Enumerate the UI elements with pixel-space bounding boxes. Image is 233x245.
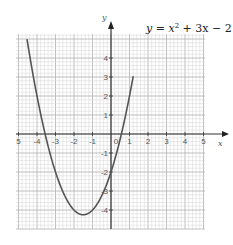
y-axis-arrow-icon bbox=[108, 21, 114, 29]
function-graph: 5-4-3-2-10123454321-1-2-3-4 y x y = x2 +… bbox=[0, 0, 233, 245]
equation-title: y = x2 + 3x − 2 bbox=[145, 22, 232, 35]
x-tick-label: -1 bbox=[89, 137, 97, 146]
y-tick-label: 2 bbox=[104, 92, 109, 101]
x-tick-label: 5 bbox=[16, 137, 21, 146]
y-tick-label: -1 bbox=[101, 149, 109, 158]
y-tick-label: 1 bbox=[104, 111, 109, 120]
title-rest: + 3x − 2 bbox=[179, 22, 232, 35]
x-tick-label: 1 bbox=[127, 137, 132, 146]
x-axis-arrow-icon bbox=[222, 131, 229, 137]
y-tick-label: 4 bbox=[104, 54, 109, 63]
x-tick-label: 3 bbox=[164, 137, 169, 146]
y-axis-label: y bbox=[101, 13, 107, 22]
y-tick-label: -2 bbox=[101, 168, 109, 177]
y-tick-label: 3 bbox=[104, 73, 109, 82]
x-tick-label: -3 bbox=[52, 137, 60, 146]
title-lhs: y = bbox=[145, 22, 168, 35]
x-tick-label: -2 bbox=[70, 137, 78, 146]
x-tick-label: -4 bbox=[33, 137, 41, 146]
x-tick-label: 5 bbox=[201, 137, 206, 146]
y-tick-label: -4 bbox=[101, 206, 109, 215]
x-tick-label: 2 bbox=[146, 137, 151, 146]
x-tick-label: 4 bbox=[183, 137, 188, 146]
x-axis-label: x bbox=[218, 139, 223, 148]
